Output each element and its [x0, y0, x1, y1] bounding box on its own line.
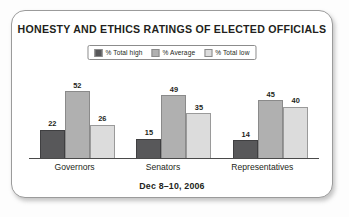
bar-wrap: 26: [90, 81, 115, 158]
bar-value-label: 49: [170, 86, 178, 93]
bar-value-label: 40: [292, 97, 300, 104]
bar-governors-average[interactable]: [65, 91, 90, 158]
category-label-senators: Senators: [146, 162, 180, 172]
category-labels: Governors Senators Representatives: [29, 162, 319, 172]
legend-swatch-icon: [94, 49, 102, 57]
chart-card: HONESTY AND ETHICS RATINGS OF ELECTED OF…: [11, 10, 333, 198]
bar-value-label: 35: [195, 104, 203, 111]
screenshot-root: HONESTY AND ETHICS RATINGS OF ELECTED OF…: [0, 0, 349, 217]
bar-governors-total-low[interactable]: [90, 125, 115, 158]
legend-label: % Total low: [215, 49, 249, 56]
bar-wrap: 52: [65, 81, 90, 158]
bar-wrap: 22: [40, 81, 65, 158]
bar-group-senators: 15 49 35: [136, 81, 211, 158]
bar-groups: 22 52 26 15: [29, 81, 319, 158]
bar-value-label: 15: [145, 129, 153, 136]
bar-wrap: 40: [283, 81, 308, 158]
legend-item-total-high[interactable]: % Total high: [94, 49, 142, 57]
bar-value-label: 14: [242, 131, 250, 138]
bar-representatives-average[interactable]: [258, 100, 283, 158]
chart-title: HONESTY AND ETHICS RATINGS OF ELECTED OF…: [12, 23, 332, 35]
x-axis-line: [29, 158, 319, 159]
plot-area: 22 52 26 15: [29, 81, 319, 159]
bar-value-label: 45: [267, 91, 275, 98]
category-label-governors: Governors: [55, 162, 95, 172]
category-label-representatives: Representatives: [231, 162, 293, 172]
bar-group-governors: 22 52 26: [40, 81, 115, 158]
chart-subtitle-date: Dec 8–10, 2006: [12, 181, 332, 191]
bar-governors-total-high[interactable]: [40, 130, 65, 158]
bar-senators-total-high[interactable]: [136, 139, 161, 158]
bar-representatives-total-low[interactable]: [283, 107, 308, 158]
bar-representatives-total-high[interactable]: [233, 140, 258, 158]
bar-wrap: 35: [186, 81, 211, 158]
bar-wrap: 49: [161, 81, 186, 158]
legend-label: % Total high: [105, 49, 142, 56]
bar-value-label: 22: [48, 120, 56, 127]
bar-senators-average[interactable]: [161, 95, 186, 158]
bar-wrap: 45: [258, 81, 283, 158]
legend-item-average[interactable]: % Average: [152, 49, 196, 57]
bar-value-label: 52: [73, 82, 81, 89]
bar-group-representatives: 14 45 40: [233, 81, 308, 158]
legend-label: % Average: [163, 49, 196, 56]
legend-item-total-low[interactable]: % Total low: [204, 49, 249, 57]
legend-swatch-icon: [152, 49, 160, 57]
legend-swatch-icon: [204, 49, 212, 57]
bar-wrap: 14: [233, 81, 258, 158]
chart-legend: % Total high % Average % Total low: [87, 45, 256, 60]
bar-wrap: 15: [136, 81, 161, 158]
bar-value-label: 26: [98, 115, 106, 122]
bar-senators-total-low[interactable]: [186, 113, 211, 158]
